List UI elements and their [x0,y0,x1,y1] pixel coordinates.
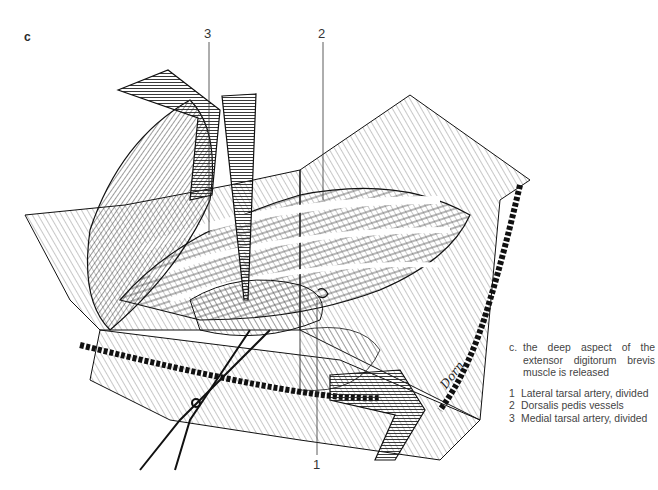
callout-number-3: 3 [204,26,211,41]
legend-item-3: 3 Medial tarsal artery, divided [509,413,655,426]
caption-key: c. [509,342,523,380]
legend-item-1: 1 Lateral tarsal artery, divided [509,388,655,401]
callout-number-2: 2 [318,26,325,41]
legend-item-2: 2 Dorsalis pedis vessels [509,400,655,413]
callout-number-1: 1 [313,457,320,472]
caption-text: the deep aspect of the extensor digitoru… [523,342,655,380]
caption-main: c. the deep aspect of the extensor digit… [509,342,655,380]
figure-caption: c. the deep aspect of the extensor digit… [509,342,655,426]
